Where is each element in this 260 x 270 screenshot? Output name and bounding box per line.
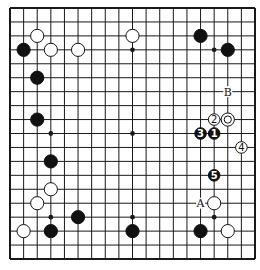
black-stone [17, 43, 30, 56]
black-stone [194, 29, 207, 42]
star-point [212, 215, 217, 220]
star-point [130, 131, 135, 136]
white-stone-icon [71, 43, 84, 56]
go-board: 23145 BA [0, 0, 260, 270]
white-stone [221, 225, 234, 238]
white-stone-icon [44, 43, 57, 56]
white-stone-icon [31, 29, 44, 42]
black-stone-icon [31, 113, 44, 126]
move-number: 2 [211, 114, 217, 125]
black-stone-icon [126, 225, 139, 238]
white-stone [71, 43, 84, 56]
go-board-diagram: 23145 BA [0, 0, 260, 270]
white-stone-icon [44, 183, 57, 196]
black-stone-icon [44, 225, 57, 238]
letter-label: A [196, 197, 206, 210]
star-point [130, 215, 135, 220]
black-stone [44, 225, 57, 238]
move-number: 3 [197, 128, 204, 139]
black-stone [194, 225, 207, 238]
white-stone [126, 29, 139, 42]
move-number: 4 [238, 142, 244, 153]
black-stone-1: 1 [208, 128, 220, 140]
white-stone [31, 29, 44, 42]
white-stone-4: 4 [236, 142, 248, 154]
black-stone-icon [44, 155, 57, 168]
star-point [48, 215, 53, 220]
white-stone-icon [31, 197, 44, 210]
white-stone-2: 2 [208, 114, 220, 126]
black-stone-3: 3 [195, 128, 207, 140]
white-stone [31, 197, 44, 210]
white-stone [208, 197, 221, 210]
letter-label: B [224, 86, 232, 99]
white-stone-icon [126, 29, 139, 42]
star-point [130, 47, 135, 52]
white-stone [17, 225, 30, 238]
position-letter-A: A [196, 197, 206, 210]
black-stone-icon [31, 71, 44, 84]
white-stone [44, 183, 57, 196]
move-number: 1 [211, 128, 218, 139]
black-stone [221, 43, 234, 56]
black-stone [71, 211, 84, 224]
black-stone [31, 71, 44, 84]
white-stone-icon [221, 225, 234, 238]
black-stone [126, 225, 139, 238]
white-stone [221, 113, 234, 126]
black-stone-icon [194, 29, 207, 42]
white-stone-icon [208, 197, 221, 210]
black-stone-5: 5 [208, 170, 220, 182]
black-stone-icon [221, 43, 234, 56]
white-stone [44, 43, 57, 56]
white-stone-icon [221, 113, 234, 126]
white-stone-icon [17, 225, 30, 238]
star-point [48, 131, 53, 136]
black-stone-icon [17, 43, 30, 56]
black-stone-icon [71, 211, 84, 224]
black-stone [31, 113, 44, 126]
star-point [212, 47, 217, 52]
move-number: 5 [211, 170, 218, 181]
black-stone [44, 155, 57, 168]
position-letter-B: B [223, 86, 232, 99]
black-stone-icon [194, 225, 207, 238]
